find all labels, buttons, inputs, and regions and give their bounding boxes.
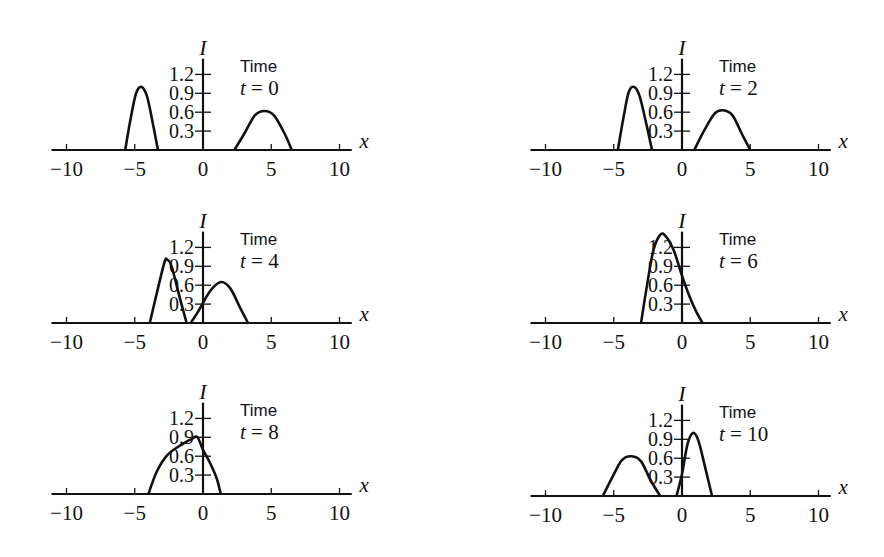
time-annotation-title: Time (240, 57, 277, 76)
y-tick-label: 0.6 (648, 447, 673, 469)
y-tick-label: 0.3 (169, 464, 194, 486)
x-tick-label: −5 (124, 157, 146, 181)
x-tick-label: 10 (808, 157, 829, 181)
y-tick-label: 0.3 (169, 120, 194, 142)
x-tick-label: −10 (529, 157, 562, 181)
x-axis-label: x (358, 302, 369, 326)
x-tick-label: 5 (266, 330, 277, 354)
y-tick-label: 0.9 (648, 428, 673, 450)
x-tick-label: −10 (529, 503, 562, 527)
x-tick-label: −5 (124, 501, 146, 525)
x-tick-label: −5 (603, 503, 625, 527)
x-tick-label: 5 (745, 157, 756, 181)
time-annotation-title: Time (240, 401, 277, 420)
x-axis-label: x (358, 473, 369, 497)
x-tick-label: −5 (603, 157, 625, 181)
x-tick-label: −5 (124, 330, 146, 354)
time-annotation-value: t = 2 (719, 76, 758, 100)
y-axis-label: I (198, 208, 208, 233)
panel-t6: −10−505100.30.60.91.2IxTimet = 6 (529, 208, 848, 354)
panel-t4: −10−505100.30.60.91.2IxTimet = 4 (50, 208, 369, 354)
y-axis-label: I (198, 379, 208, 404)
x-tick-label: 0 (677, 157, 688, 181)
y-tick-label: 1.2 (169, 63, 194, 85)
time-annotation-value: t = 4 (240, 249, 279, 273)
time-annotation-title: Time (719, 230, 756, 249)
x-axis-label: x (358, 129, 369, 153)
y-tick-label: 0.3 (648, 120, 673, 142)
pulse-curve (618, 87, 652, 150)
panel-t8: −10−505100.30.60.91.2IxTimet = 8 (50, 379, 369, 525)
x-tick-label: 10 (808, 330, 829, 354)
y-tick-label: 1.2 (648, 63, 673, 85)
time-annotation-title: Time (719, 403, 756, 422)
x-tick-label: 0 (677, 330, 688, 354)
x-tick-label: 0 (198, 501, 209, 525)
x-tick-label: 10 (808, 503, 829, 527)
x-tick-label: −10 (50, 330, 83, 354)
x-tick-label: 5 (745, 503, 756, 527)
time-annotation-value: t = 8 (240, 420, 279, 444)
x-tick-label: 5 (266, 501, 277, 525)
time-annotation-title: Time (719, 57, 756, 76)
x-tick-label: −10 (50, 501, 83, 525)
x-axis-label: x (837, 475, 848, 499)
y-tick-label: 1.2 (169, 236, 194, 258)
y-tick-label: 0.3 (648, 293, 673, 315)
y-tick-label: 0.6 (169, 101, 194, 123)
panel-t10: −10−505100.30.60.91.2IxTimet = 10 (529, 381, 848, 527)
x-tick-label: 10 (329, 330, 350, 354)
y-tick-label: 0.6 (169, 445, 194, 467)
y-tick-label: 1.2 (169, 407, 194, 429)
y-axis-label: I (677, 208, 687, 233)
time-annotation-title: Time (240, 230, 277, 249)
panel-t2: −10−505100.30.60.91.2IxTimet = 2 (529, 35, 848, 181)
y-tick-label: 1.2 (648, 409, 673, 431)
y-tick-label: 0.6 (648, 274, 673, 296)
pulse-curve (125, 87, 158, 150)
pulse-curve (694, 110, 750, 150)
x-tick-label: 10 (329, 157, 350, 181)
x-tick-label: −10 (50, 157, 83, 181)
time-annotation-value: t = 10 (719, 422, 768, 446)
x-tick-label: 0 (198, 330, 209, 354)
x-tick-label: 5 (266, 157, 277, 181)
x-tick-label: −10 (529, 330, 562, 354)
y-axis-label: I (198, 35, 208, 60)
x-axis-label: x (837, 302, 848, 326)
pulse-curve (234, 111, 291, 150)
x-tick-label: 5 (745, 330, 756, 354)
x-tick-label: −5 (603, 330, 625, 354)
y-tick-label: 0.6 (169, 274, 194, 296)
time-annotation-value: t = 0 (240, 76, 279, 100)
x-axis-label: x (837, 129, 848, 153)
y-axis-label: I (677, 381, 687, 406)
figure: −10−505100.30.60.91.2IxTimet = 0−10−5051… (0, 0, 884, 557)
pulse-curve (191, 282, 248, 323)
y-tick-label: 0.9 (169, 82, 194, 104)
time-annotation-value: t = 6 (719, 249, 758, 273)
y-axis-label: I (677, 35, 687, 60)
y-tick-label: 0.6 (648, 101, 673, 123)
panel-t0: −10−505100.30.60.91.2IxTimet = 0 (50, 35, 369, 181)
x-tick-label: 0 (198, 157, 209, 181)
x-tick-label: 10 (329, 501, 350, 525)
x-tick-label: 0 (677, 503, 688, 527)
y-tick-label: 0.9 (648, 82, 673, 104)
